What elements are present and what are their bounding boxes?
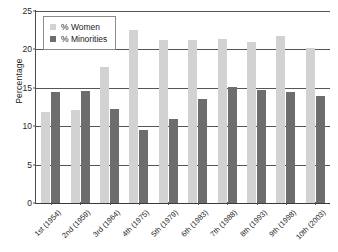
bar-group [301,11,330,203]
x-axis-label-cell: 5th (1979) [154,205,183,251]
x-tick-mark [168,202,169,205]
y-tick-label-5: 5 [27,160,32,170]
x-axis-tick-label: 1st (1954) [32,208,62,238]
x-tick-mark [139,202,140,205]
x-axis-tick-label: 2nd (1959) [60,208,92,240]
bar-women [188,40,197,203]
x-tick-mark [315,202,316,205]
bar-group [212,11,241,203]
legend-label-minorities: % Minorities [61,34,107,44]
bar-group [124,11,153,203]
y-tick-label-0: 0 [27,198,32,208]
bar-minorities [198,99,207,203]
y-tick-label-10: 10 [23,121,32,131]
bar-group [154,11,183,203]
bar-minorities [316,96,325,203]
legend-swatch-minorities-icon [50,36,56,42]
bar-women [129,30,138,203]
bar-group [183,11,212,203]
x-axis-labels: 1st (1954)2nd (1959)3rd (1964)4th (1975)… [36,205,330,251]
bar-women [218,39,227,203]
legend-label-women: % Women [61,22,100,32]
bar-group [271,11,300,203]
x-axis-tick-label: 4th (1975) [120,208,151,239]
bar-women [159,40,168,203]
x-axis-label-cell: 7th (1988) [212,205,241,251]
y-tick-label-25: 25 [23,6,32,16]
x-axis-label-cell: 8th (1993) [242,205,271,251]
bar-minorities [286,92,295,203]
legend: % Women % Minorities [43,16,116,50]
x-axis-tick-label: 7th (1988) [208,208,239,239]
x-tick-mark [198,202,199,205]
x-axis-label-cell: 6th (1983) [183,205,212,251]
bar-women [247,42,256,203]
y-tick-label-20: 20 [23,44,32,54]
x-axis-label-cell: 2nd (1959) [65,205,94,251]
x-axis-label-cell: 4th (1975) [124,205,153,251]
x-axis-tick-label: 8th (1993) [238,208,269,239]
bar-women [276,36,285,203]
bar-chart: Percentage 0510152025 1st (1954)2nd (195… [0,0,338,252]
x-axis-label-cell: 3rd (1964) [95,205,124,251]
bar-minorities [139,130,148,203]
bar-minorities [110,109,119,203]
y-axis-title: Percentage [14,26,24,136]
x-axis-label-cell: 9th (1998) [271,205,300,251]
x-axis-label-cell: 1st (1954) [36,205,65,251]
x-axis-tick-label: 5th (1979) [150,208,181,239]
bar-women [100,67,109,203]
y-tick-label-15: 15 [23,83,32,93]
x-axis-tick-label: 6th (1983) [179,208,210,239]
bar-women [71,110,80,203]
x-axis-label-cell: 10th (2003) [301,205,330,251]
bar-women [41,112,50,203]
x-tick-mark [257,202,258,205]
x-axis-tick-label: 3rd (1964) [91,208,122,239]
bar-group [242,11,271,203]
bar-minorities [257,90,266,203]
x-tick-mark [227,202,228,205]
legend-item-women: % Women [50,21,107,33]
x-tick-mark [286,202,287,205]
x-tick-mark [80,202,81,205]
bar-minorities [81,91,90,203]
bar-minorities [169,119,178,203]
legend-item-minorities: % Minorities [50,33,107,45]
x-tick-mark [110,202,111,205]
legend-swatch-women-icon [50,24,56,30]
x-tick-mark [51,202,52,205]
bar-minorities [51,92,60,203]
bar-women [306,48,315,203]
bar-minorities [228,87,237,203]
